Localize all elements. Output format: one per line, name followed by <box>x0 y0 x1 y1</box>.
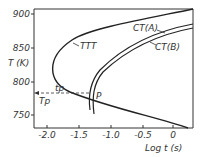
Tp-label: Tp <box>39 96 50 106</box>
tp-arrow-icon <box>34 91 39 95</box>
x-tick-minus1: -1.0 <box>102 130 120 140</box>
tp-label: tp <box>55 83 65 93</box>
plot-frame <box>34 9 193 128</box>
ct-b-curve <box>93 28 193 114</box>
ttt-diagram: 900 850 800 750 T (K) -2.0 -1.5 -1.0 -0.… <box>0 0 203 157</box>
ttt-label: TTT <box>80 41 98 51</box>
y-tick-800: 800 <box>13 77 30 87</box>
x-tick-minus1.5: -1.5 <box>70 130 88 140</box>
y-axis-label: T (K) <box>8 58 29 68</box>
x-axis-label: Log t (s) <box>145 143 182 153</box>
y-tick-900: 900 <box>13 9 30 19</box>
ttt-curve <box>53 9 193 128</box>
y-tick-750: 750 <box>13 110 30 120</box>
x-tick-minus0.5: -0.5 <box>134 130 152 140</box>
ct-a-curve <box>89 24 193 110</box>
y-tick-850: 850 <box>13 43 30 53</box>
ttt-leader <box>73 43 79 46</box>
ct-b-label: CT(B) <box>155 42 180 52</box>
point-p-label: P <box>96 91 102 101</box>
x-tick-minus2: -2.0 <box>38 130 56 140</box>
ct-a-label: CT(A) <box>133 23 158 33</box>
x-tick-0: 0 <box>170 130 176 140</box>
